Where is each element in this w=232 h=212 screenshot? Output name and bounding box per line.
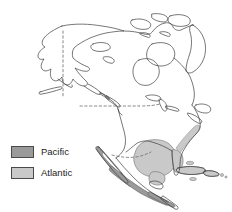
arctic-island-outline xyxy=(131,19,151,29)
legend-label-pacific: Pacific xyxy=(41,146,69,157)
atlantic-coastal-strip xyxy=(176,125,200,153)
region-atlantic xyxy=(134,125,227,185)
legend-item-pacific[interactable]: Pacific xyxy=(11,141,101,162)
newfoundland-outline xyxy=(195,104,211,113)
canada-arctic-coast-outline xyxy=(124,23,193,35)
baffin-island-outline xyxy=(147,43,175,66)
atlantic-jamaica-shape xyxy=(190,177,197,180)
atlantic-yucatan-shape xyxy=(149,172,165,185)
atlantic-island-dot xyxy=(221,174,224,177)
victoria-island-outline xyxy=(91,43,111,52)
aleutian-chain-outline xyxy=(39,87,62,95)
hudson-bay-outline xyxy=(133,59,159,86)
lake-erie-ontario-outline xyxy=(166,106,179,111)
map-figure: Pacific Atlantic xyxy=(0,0,232,212)
lake-superior-outline xyxy=(146,95,161,101)
labrador-coast-outline xyxy=(174,58,194,105)
atlantic-island-dot xyxy=(225,176,227,178)
legend-swatch-atlantic xyxy=(11,167,34,179)
banks-island-outline xyxy=(103,57,114,64)
atlantic-bahamas-shape xyxy=(186,161,194,164)
political-borders xyxy=(63,31,160,157)
legend-swatch-pacific xyxy=(11,146,34,158)
arctic-island-outline xyxy=(152,14,168,22)
lake-michigan-huron-outline xyxy=(159,99,167,111)
alaska-outline xyxy=(38,24,124,86)
alaska-southcoast-outline xyxy=(58,79,72,87)
legend-item-atlantic[interactable]: Atlantic xyxy=(11,162,101,183)
us-west-coast-outline xyxy=(116,109,126,158)
ellesmere-island-outline xyxy=(168,15,190,27)
legend-label-atlantic: Atlantic xyxy=(41,167,72,178)
map-legend: Pacific Atlantic xyxy=(11,141,101,183)
arctic-island-small-outline xyxy=(160,32,170,37)
greenland-west-coast-outline xyxy=(186,25,206,73)
